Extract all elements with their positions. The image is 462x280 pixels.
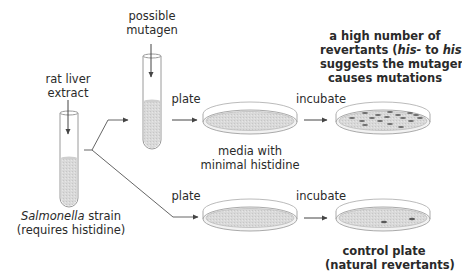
incubate-label-top: incubate <box>296 92 346 106</box>
strain-label: Salmonella strain (requires histidine) <box>8 209 134 237</box>
ames-test-diagram: rat liver extract possible mutagen Salmo… <box>0 0 462 280</box>
control-plate-label: control plate (natural revertants) <box>325 244 443 272</box>
result-annotation: a high number of revertants (his- to his… <box>320 29 450 85</box>
strain-test-tube <box>60 111 78 207</box>
rat-liver-label: rat liver extract <box>40 72 96 100</box>
media-label: media with minimal histidine <box>200 144 300 172</box>
plate-label-top: plate <box>171 92 201 106</box>
mutagen-test-tube <box>143 54 161 149</box>
plate-label-bottom: plate <box>171 189 201 203</box>
incubate-label-bottom: incubate <box>296 189 346 203</box>
media-dish-bottom <box>203 199 297 231</box>
media-dish-top <box>203 102 297 134</box>
possible-mutagen-label: possible mutagen <box>122 9 182 37</box>
control-dish <box>336 199 430 231</box>
result-dish-top <box>336 102 430 134</box>
